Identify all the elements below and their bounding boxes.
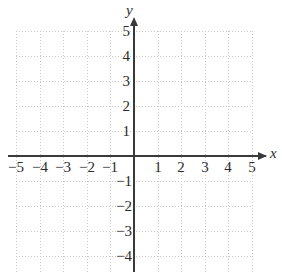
grid-line-vertical bbox=[158, 31, 159, 272]
grid-line-vertical bbox=[63, 31, 64, 272]
y-tick-label: −4 bbox=[100, 249, 132, 264]
y-tick-label: −2 bbox=[100, 199, 132, 214]
y-tick-label: −3 bbox=[100, 224, 132, 239]
y-tick-label: −1 bbox=[100, 174, 132, 189]
y-tick-label: 2 bbox=[108, 99, 130, 114]
y-axis-arrowhead bbox=[130, 17, 138, 26]
coordinate-plane-graph: y x −5 −4 −3 −2 −1 1 2 3 4 5 5 4 3 2 1 −… bbox=[0, 0, 282, 272]
y-tick-label: 4 bbox=[108, 49, 130, 64]
x-tick-label: −2 bbox=[79, 160, 95, 175]
x-tick-label: 4 bbox=[224, 160, 232, 175]
x-axis-arrowhead bbox=[258, 152, 267, 160]
grid-line-vertical bbox=[16, 31, 17, 272]
grid-line-vertical bbox=[87, 31, 88, 272]
x-tick-label: 3 bbox=[201, 160, 209, 175]
grid-line-vertical bbox=[181, 31, 182, 272]
y-axis-label: y bbox=[126, 3, 133, 18]
x-axis-line bbox=[8, 155, 266, 157]
x-tick-label: −3 bbox=[55, 160, 71, 175]
x-axis-label: x bbox=[270, 146, 277, 161]
grid-line-vertical bbox=[228, 31, 229, 272]
x-tick-label: 5 bbox=[248, 160, 256, 175]
x-tick-label: 1 bbox=[154, 160, 162, 175]
y-tick-label: 3 bbox=[108, 74, 130, 89]
x-tick-label: −5 bbox=[8, 160, 24, 175]
y-tick-label: 1 bbox=[108, 124, 130, 139]
y-tick-label: 5 bbox=[108, 24, 130, 39]
grid-line-vertical bbox=[252, 31, 253, 272]
x-tick-label: 2 bbox=[177, 160, 185, 175]
grid-line-vertical bbox=[40, 31, 41, 272]
grid-line-vertical bbox=[205, 31, 206, 272]
y-axis-line bbox=[133, 24, 135, 272]
x-tick-label: −4 bbox=[32, 160, 48, 175]
